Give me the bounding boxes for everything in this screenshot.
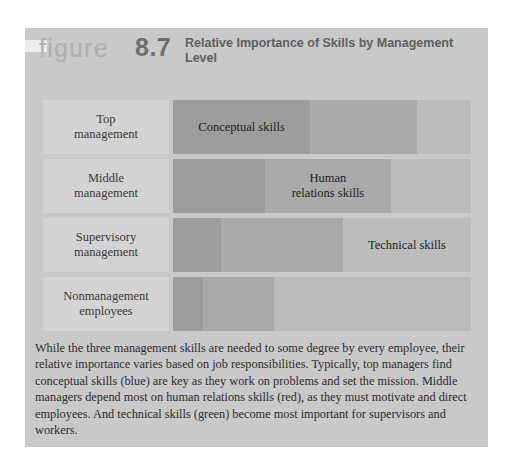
bar-segment-label: Human relations skills	[288, 171, 368, 201]
bar-segment-label: Technical skills	[368, 238, 446, 253]
bar-segment-human-relations: Human relations skills	[265, 159, 390, 213]
chart-row-label: Supervisorymanagement	[43, 218, 169, 272]
chart-row-label: Topmanagement	[43, 100, 169, 154]
chart-row: MiddlemanagementHuman relations skills	[43, 159, 471, 213]
figure-header: figure 8.7 Relative Importance of Skills…	[25, 28, 488, 84]
bar-segment-human-relations	[310, 100, 417, 154]
bar-segment-label: Conceptual skills	[198, 120, 284, 135]
bar-segment-human-relations	[203, 277, 275, 331]
chart-row: TopmanagementConceptual skills	[43, 100, 471, 154]
figure-panel: figure 8.7 Relative Importance of Skills…	[25, 28, 488, 447]
bar-segment-conceptual	[173, 277, 203, 331]
bar-segment-technical	[417, 100, 471, 154]
figure-number-label: 8.7	[135, 33, 171, 62]
bar-segment-conceptual	[173, 218, 221, 272]
figure-title: Relative Importance of Skills by Managem…	[185, 36, 475, 66]
figure-caption: While the three management skills are ne…	[35, 340, 479, 438]
chart-row: Nonmanagementemployees	[43, 277, 471, 331]
bar-segment-technical: Technical skills	[343, 218, 471, 272]
figure-word-label: figure	[39, 34, 109, 63]
bar-segment-human-relations	[221, 218, 343, 272]
stacked-bar-chart: TopmanagementConceptual skillsMiddlemana…	[43, 100, 471, 332]
bar-segment-technical	[274, 277, 471, 331]
bar-segment-conceptual	[173, 159, 265, 213]
chart-row: SupervisorymanagementTechnical skills	[43, 218, 471, 272]
bar-segment-conceptual: Conceptual skills	[173, 100, 310, 154]
chart-row-label: Nonmanagementemployees	[43, 277, 169, 331]
chart-row-label: Middlemanagement	[43, 159, 169, 213]
bar-segment-technical	[391, 159, 471, 213]
